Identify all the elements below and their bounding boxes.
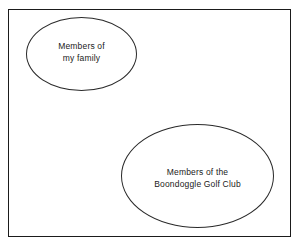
- set-label-golf-club: Members of the Boondoggle Golf Club: [121, 167, 274, 190]
- set-label-golf-club-line2: Boondoggle Golf Club: [121, 179, 274, 191]
- venn-diagram-canvas: Members of my family Members of the Boon…: [0, 0, 301, 248]
- set-label-family: Members of my family: [26, 41, 137, 64]
- set-label-family-line1: Members of: [26, 41, 137, 53]
- set-label-golf-club-line1: Members of the: [121, 167, 274, 179]
- set-label-family-line2: my family: [26, 53, 137, 65]
